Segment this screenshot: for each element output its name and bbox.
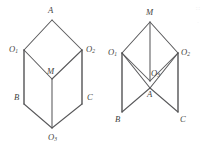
vertex-label-O3: O3 xyxy=(48,132,57,142)
vertex-label-C: C xyxy=(180,114,186,124)
corner-marks: ∷· xyxy=(196,5,200,26)
edge-B-O3 xyxy=(24,104,52,128)
edge-M-O2 xyxy=(150,22,178,53)
vertex-label-B: B xyxy=(115,114,121,124)
right-figure: MO1O2O3ABC xyxy=(108,7,190,124)
vertex-label-O1: O1 xyxy=(108,47,117,57)
edge-A-O2 xyxy=(52,20,82,50)
edge-O2-M xyxy=(52,50,82,79)
left-figure: AO1O2MBCO3 xyxy=(9,5,95,142)
edge-A-C xyxy=(150,88,178,112)
vertex-label-C: C xyxy=(87,92,93,102)
vertex-label-O3: O3 xyxy=(151,68,160,78)
edge-A-O1 xyxy=(24,20,52,50)
edge-O1-A xyxy=(122,53,150,88)
edge-A-B xyxy=(122,88,150,112)
edge-C-O3 xyxy=(52,104,82,128)
corner-mark-2: · xyxy=(197,20,199,26)
edge-M-O1 xyxy=(122,22,150,53)
vertex-label-A: A xyxy=(47,5,54,15)
vertex-label-O2: O2 xyxy=(86,44,95,54)
vertex-label-O2: O2 xyxy=(181,47,190,57)
vertex-label-M: M xyxy=(145,7,154,17)
vertex-label-A: A xyxy=(146,89,153,99)
edge-O1-O3 xyxy=(122,53,150,81)
vertex-label-O1: O1 xyxy=(9,44,18,54)
vertex-label-B: B xyxy=(14,92,20,102)
corner-mark-1: ∷ xyxy=(196,5,200,11)
geometry-diagram-canvas: AO1O2MBCO3 MO1O2O3ABC ∷· xyxy=(0,0,207,147)
vertex-label-M: M xyxy=(46,66,55,76)
